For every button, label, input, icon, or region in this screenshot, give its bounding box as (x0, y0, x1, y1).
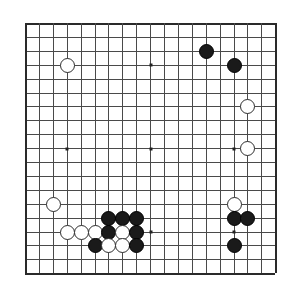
white-stone-4-4[interactable] (60, 58, 75, 73)
grid-line-horizontal-19 (25, 273, 275, 275)
black-stone-6-17[interactable] (88, 238, 103, 253)
grid-line-vertical-3 (53, 23, 54, 273)
star-point-16-10 (233, 147, 236, 150)
star-point-10-16 (149, 231, 152, 234)
white-stone-7-17[interactable] (101, 238, 116, 253)
black-stone-7-16[interactable] (101, 225, 116, 240)
black-stone-16-4[interactable] (227, 58, 242, 73)
white-stone-17-7[interactable] (240, 99, 255, 114)
grid-line-vertical-1 (25, 23, 27, 273)
grid-line-vertical-11 (164, 23, 165, 273)
go-board[interactable] (17, 16, 269, 278)
black-stone-14-3[interactable] (199, 44, 214, 59)
screenshot-root (0, 0, 288, 300)
black-stone-8-15[interactable] (115, 211, 130, 226)
white-stone-5-16[interactable] (74, 225, 89, 240)
grid-line-vertical-2 (39, 23, 40, 273)
grid-line-vertical-12 (178, 23, 179, 273)
black-stone-16-15[interactable] (227, 211, 242, 226)
white-stone-8-17[interactable] (115, 238, 130, 253)
black-stone-9-17[interactable] (129, 238, 144, 253)
white-stone-3-14[interactable] (46, 197, 61, 212)
black-stone-17-15[interactable] (240, 211, 255, 226)
grid-line-vertical-18 (261, 23, 262, 273)
star-point-16-16 (233, 231, 236, 234)
white-stone-17-10[interactable] (240, 141, 255, 156)
black-stone-9-16[interactable] (129, 225, 144, 240)
grid-line-vertical-14 (206, 23, 207, 273)
white-stone-6-16[interactable] (88, 225, 103, 240)
grid-line-vertical-15 (220, 23, 221, 273)
white-stone-4-16[interactable] (60, 225, 75, 240)
star-point-4-10 (66, 147, 69, 150)
black-stone-9-15[interactable] (129, 211, 144, 226)
white-stone-16-14[interactable] (227, 197, 242, 212)
black-stone-7-15[interactable] (101, 211, 116, 226)
grid-line-vertical-13 (192, 23, 193, 273)
black-stone-16-17[interactable] (227, 238, 242, 253)
white-stone-8-16[interactable] (115, 225, 130, 240)
star-point-10-4 (149, 64, 152, 67)
star-point-10-10 (149, 147, 152, 150)
grid-line-vertical-19 (275, 23, 277, 273)
